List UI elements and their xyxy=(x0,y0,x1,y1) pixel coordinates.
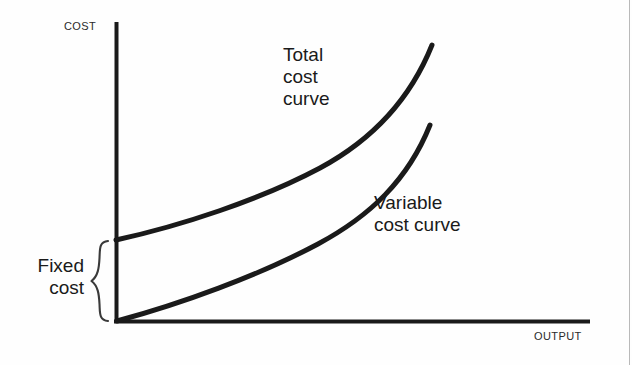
x-axis-label: OUTPUT xyxy=(534,330,582,342)
y-axis-label: COST xyxy=(64,20,96,32)
variable-cost-curve-label: Variable cost curve xyxy=(374,192,461,236)
fixed-cost-label: Fixed cost xyxy=(0,255,84,299)
cost-curve-figure: COST OUTPUT Total cost curve Variable co… xyxy=(0,0,632,365)
fixed-cost-brace xyxy=(92,241,109,321)
total-cost-curve-label: Total cost curve xyxy=(283,44,329,110)
